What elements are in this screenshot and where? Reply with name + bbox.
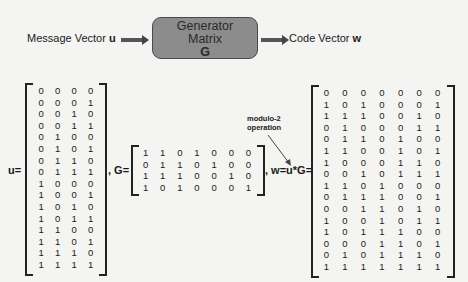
g-matrix-cell: 0 (223, 182, 240, 194)
w-matrix-cell: 0 (354, 238, 373, 250)
g-matrix-cell: 0 (137, 159, 154, 171)
u-matrix-cell: 0 (83, 85, 100, 97)
w-matrix-cell: 1 (317, 157, 336, 169)
w-matrix-cell: 0 (317, 122, 336, 134)
u-matrix-cell: 1 (83, 213, 100, 225)
u-matrix-cell: 1 (83, 166, 100, 178)
w-matrix-cell: 1 (354, 99, 373, 111)
u-matrix-cell: 0 (83, 247, 100, 259)
w-matrix-cell: 1 (428, 99, 447, 111)
w-matrix-cell: 0 (428, 87, 447, 99)
g-matrix-cell: 0 (206, 170, 223, 182)
u-matrix-cell: 1 (66, 120, 83, 132)
w-matrix-cell: 0 (354, 249, 373, 261)
u-matrix-cell: 1 (33, 247, 50, 259)
u-matrix-cell: 0 (33, 131, 50, 143)
w-matrix-cell: 1 (391, 261, 410, 273)
w-matrix-cell: 0 (410, 99, 429, 111)
g-matrix-cell: 1 (154, 159, 171, 171)
u-matrix-cell: 0 (50, 201, 67, 213)
w-matrix-cell: 1 (410, 203, 429, 215)
g-matrix-cell: 0 (188, 182, 205, 194)
u-matrix-cell: 0 (50, 85, 67, 97)
w-matrix-cell: 0 (428, 110, 447, 122)
u-matrix-cell: 0 (50, 120, 67, 132)
w-matrix-cell: 0 (317, 191, 336, 203)
g-matrix-cell: 0 (171, 147, 188, 159)
w-matrix-cell: 1 (336, 261, 355, 273)
w-matrix-cell: 0 (428, 203, 447, 215)
w-matrix-cell: 1 (354, 226, 373, 238)
u-bracket-right (99, 83, 107, 276)
w-equals-label: , w=u*G= (265, 164, 312, 176)
message-vector-var: u (109, 32, 116, 44)
u-matrix-cell: 1 (33, 189, 50, 201)
box-line-3: G (153, 46, 257, 59)
u-matrix-cell: 1 (33, 224, 50, 236)
w-matrix-cell: 1 (336, 133, 355, 145)
w-matrix-cell: 1 (428, 261, 447, 273)
w-matrix-cell: 1 (317, 99, 336, 111)
w-matrix-cell: 0 (336, 203, 355, 215)
u-matrix-grid: 0000000100100011010001010110011110001001… (33, 85, 99, 271)
code-vector-var: w (353, 32, 362, 44)
w-matrix-cell: 1 (428, 168, 447, 180)
w-matrix-cell: 0 (336, 168, 355, 180)
w-matrix: 0000000101000111100100100011011010011001… (311, 85, 455, 278)
u-matrix-cell: 1 (33, 201, 50, 213)
w-matrix-cell: 1 (354, 203, 373, 215)
w-matrix-cell: 1 (373, 215, 392, 227)
w-matrix-cell: 1 (373, 261, 392, 273)
u-matrix-cell: 1 (83, 236, 100, 248)
u-matrix-cell: 1 (66, 108, 83, 120)
w-matrix-cell: 0 (317, 168, 336, 180)
w-matrix-cell: 0 (410, 191, 429, 203)
g-matrix-cell: 1 (154, 170, 171, 182)
w-matrix-cell: 1 (428, 215, 447, 227)
u-matrix-cell: 1 (50, 155, 67, 167)
w-matrix-cell: 1 (410, 122, 429, 134)
input-arrow-icon (142, 35, 149, 45)
w-matrix-cell: 1 (317, 110, 336, 122)
w-matrix-cell: 1 (373, 191, 392, 203)
u-matrix-cell: 1 (66, 166, 83, 178)
w-matrix-cell: 1 (428, 145, 447, 157)
g-matrix-cell: 1 (171, 159, 188, 171)
u-matrix-cell: 1 (50, 259, 67, 271)
u-matrix-cell: 1 (50, 224, 67, 236)
w-matrix-cell: 1 (410, 215, 429, 227)
u-matrix-cell: 0 (33, 166, 50, 178)
w-matrix-cell: 1 (391, 226, 410, 238)
w-matrix-cell: 1 (391, 168, 410, 180)
w-matrix-cell: 0 (391, 122, 410, 134)
u-matrix: 0000000100100011010001010110011110001001… (25, 83, 107, 276)
w-matrix-cell: 0 (354, 145, 373, 157)
w-matrix-cell: 0 (336, 215, 355, 227)
w-matrix-cell: 0 (428, 157, 447, 169)
w-matrix-cell: 0 (373, 168, 392, 180)
w-matrix-cell: 0 (373, 133, 392, 145)
w-matrix-cell: 0 (428, 226, 447, 238)
u-matrix-cell: 1 (83, 97, 100, 109)
code-vector-label: Code Vector w (289, 32, 361, 44)
w-matrix-cell: 1 (391, 249, 410, 261)
annotation-line-2: operation (247, 123, 281, 132)
g-matrix-cell: 1 (188, 147, 205, 159)
g-matrix-cell: 0 (223, 147, 240, 159)
w-matrix-cell: 0 (336, 226, 355, 238)
u-matrix-cell: 1 (33, 259, 50, 271)
w-matrix-cell: 0 (410, 238, 429, 250)
u-matrix-cell: 1 (83, 189, 100, 201)
u-matrix-cell: 0 (33, 120, 50, 132)
g-matrix-cell: 1 (171, 170, 188, 182)
w-matrix-cell: 1 (373, 238, 392, 250)
w-matrix-cell: 0 (410, 145, 429, 157)
w-matrix-cell: 0 (317, 133, 336, 145)
g-matrix-cell: 0 (154, 182, 171, 194)
u-matrix-cell: 0 (83, 131, 100, 143)
w-matrix-cell: 0 (391, 215, 410, 227)
w-matrix-cell: 0 (354, 87, 373, 99)
w-matrix-cell: 0 (410, 180, 429, 192)
w-matrix-cell: 1 (354, 261, 373, 273)
modulo-2-annotation: modulo-2 operation (247, 114, 281, 132)
